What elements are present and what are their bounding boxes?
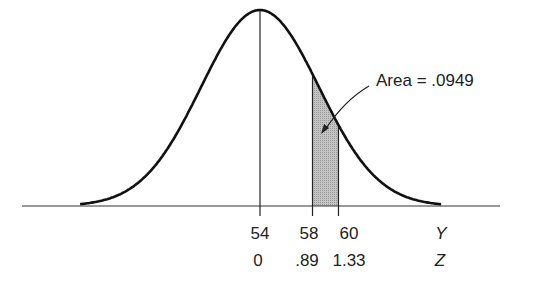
z-tick-133: 1.33 (332, 252, 365, 269)
y-tick-58: 58 (300, 225, 319, 242)
y-tick-60: 60 (340, 225, 359, 242)
normal-curve-chart (0, 0, 547, 292)
y-tick-54: 54 (251, 225, 270, 242)
area-annotation: Area = .0949 (376, 72, 474, 89)
z-axis-name: Z (435, 252, 445, 269)
y-axis-name: Y (435, 225, 446, 242)
shaded-area (313, 74, 339, 206)
z-tick-0: 0 (253, 252, 262, 269)
z-tick-089: .89 (295, 252, 319, 269)
